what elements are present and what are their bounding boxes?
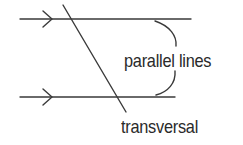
top-parallel-line [20, 11, 191, 27]
parallel-lines-label: parallel lines [124, 51, 211, 70]
parallel-lines-diagram: parallel lines transversal [0, 0, 243, 145]
transversal-label: transversal [121, 117, 198, 136]
bottom-parallel-line [20, 89, 175, 105]
transversal-line [63, 5, 126, 112]
